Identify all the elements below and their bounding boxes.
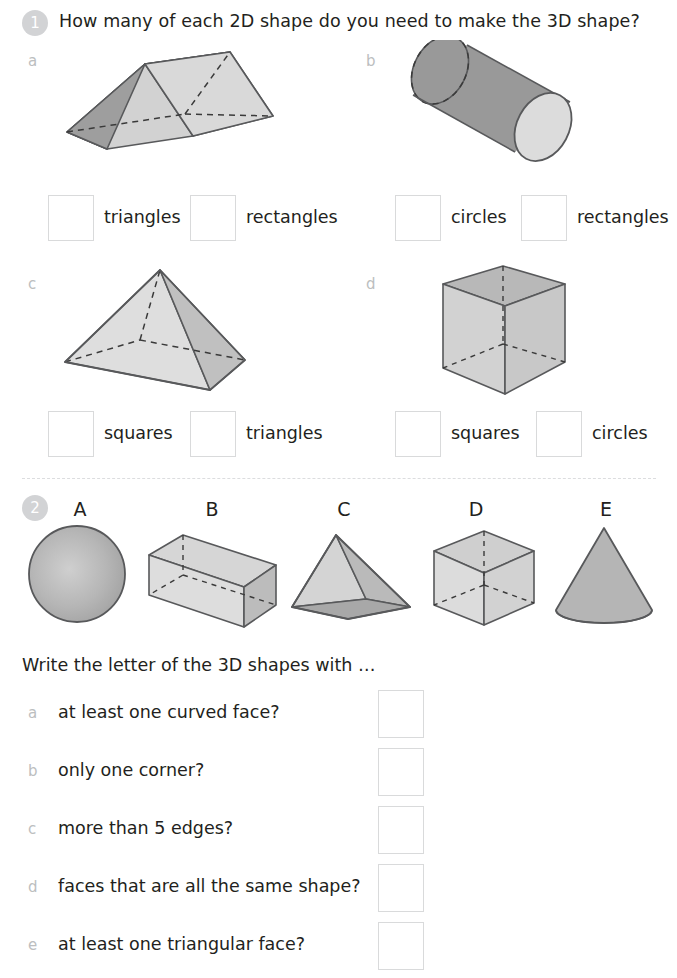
shape-triangular-prism (55, 44, 285, 183)
answer-box-1c-triangles[interactable] (190, 411, 236, 457)
answer-label-1a-triangles: triangles (104, 207, 181, 227)
question-2-prompt: Write the letter of the 3D shapes with … (22, 655, 376, 675)
section-divider (22, 478, 656, 479)
shape-cube-gallery (422, 523, 547, 637)
shape-cylinder (395, 40, 610, 184)
shape-sphere (25, 522, 135, 631)
part-label-2b: b (28, 762, 38, 780)
part-label-2e: e (28, 936, 37, 954)
shape-tetrahedron (288, 527, 418, 631)
answer-label-1a-rectangles: rectangles (246, 207, 338, 227)
answer-label-1b-rectangles: rectangles (577, 207, 669, 227)
part-text-2e: at least one triangular face? (58, 934, 305, 954)
answer-box-2b[interactable] (378, 748, 424, 796)
answer-box-1b-rectangles[interactable] (521, 195, 567, 241)
gallery-label-c: C (324, 498, 364, 520)
question-number-badge-1: 1 (22, 10, 48, 36)
answer-label-1d-squares: squares (451, 423, 520, 443)
part-text-2d: faces that are all the same shape? (58, 876, 361, 896)
answer-box-1d-circles[interactable] (536, 411, 582, 457)
answer-label-1c-triangles: triangles (246, 423, 323, 443)
part-label-1c: c (28, 275, 36, 293)
answer-box-1b-circles[interactable] (395, 195, 441, 241)
shape-cone (540, 520, 670, 634)
part-label-1d: d (366, 275, 376, 293)
gallery-label-a: A (60, 498, 100, 520)
gallery-label-e: E (586, 498, 626, 520)
answer-label-1c-squares: squares (104, 423, 173, 443)
answer-box-2c[interactable] (378, 806, 424, 854)
part-text-2b: only one corner? (58, 760, 204, 780)
gallery-label-b: B (192, 498, 232, 520)
question-number-badge-2: 2 (22, 495, 48, 521)
shape-square-pyramid (55, 262, 270, 411)
part-label-2c: c (28, 820, 36, 838)
shape-cuboid (141, 527, 286, 636)
answer-box-2e[interactable] (378, 922, 424, 970)
answer-label-1d-circles: circles (592, 423, 648, 443)
answer-label-1b-circles: circles (451, 207, 507, 227)
answer-box-1a-triangles[interactable] (48, 195, 94, 241)
worksheet-page: 1 How many of each 2D shape do you need … (0, 0, 677, 978)
part-label-1b: b (366, 52, 376, 70)
answer-box-2d[interactable] (378, 864, 424, 912)
part-label-1a: a (28, 52, 37, 70)
gallery-label-d: D (456, 498, 496, 520)
question-1-prompt: How many of each 2D shape do you need to… (59, 11, 640, 31)
part-label-2a: a (28, 704, 37, 722)
answer-box-2a[interactable] (378, 690, 424, 738)
part-text-2a: at least one curved face? (58, 702, 279, 722)
shape-cube-q1 (425, 262, 585, 411)
part-label-2d: d (28, 878, 38, 896)
answer-box-1a-rectangles[interactable] (190, 195, 236, 241)
answer-box-1c-squares[interactable] (48, 411, 94, 457)
part-text-2c: more than 5 edges? (58, 818, 233, 838)
answer-box-1d-squares[interactable] (395, 411, 441, 457)
